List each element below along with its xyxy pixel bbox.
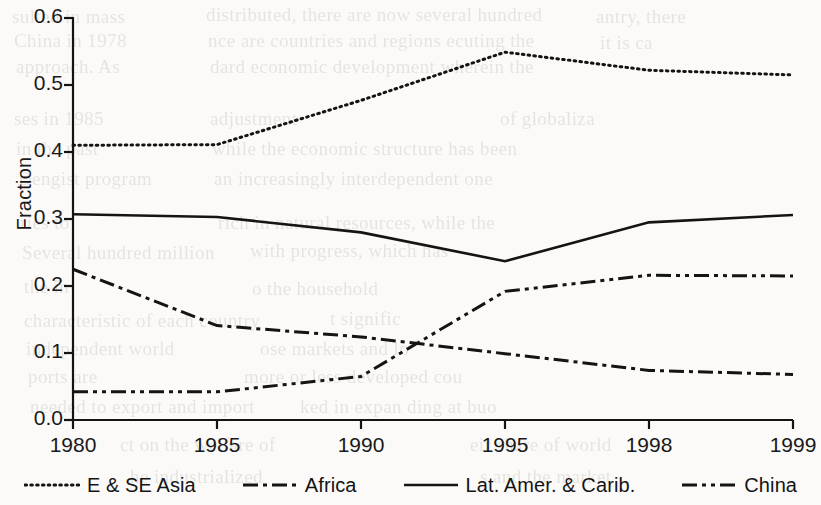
- series-line-0: [73, 52, 793, 145]
- x-axis-tick-label: 1980: [30, 433, 116, 457]
- series-line-3: [73, 275, 793, 392]
- line-chart-plot-area: [0, 0, 821, 505]
- legend-label: E & SE Asia: [87, 474, 196, 497]
- x-axis-tick-label: 1985: [174, 433, 260, 457]
- legend-item: Africa: [242, 474, 357, 497]
- legend-item: Lat. Amer. & Carib.: [403, 474, 636, 497]
- y-axis-tick-label: 0.0: [5, 406, 63, 430]
- legend-label: Africa: [305, 474, 357, 497]
- x-axis-tick-label: 1999: [750, 433, 821, 457]
- chart-legend: E & SE AsiaAfricaLat. Amer. & Carib.Chin…: [0, 468, 821, 502]
- y-axis-tick-label: 0.1: [5, 339, 63, 363]
- y-axis-tick-label: 0.2: [5, 272, 63, 296]
- legend-label: China: [744, 474, 797, 497]
- x-axis-tick-label: 1990: [318, 433, 404, 457]
- x-axis-tick-label: 1998: [606, 433, 692, 457]
- legend-item: China: [681, 474, 797, 497]
- legend-swatch-dash-dot: [242, 478, 298, 492]
- legend-swatch-solid: [403, 478, 459, 492]
- y-axis-tick-label: 0.5: [5, 71, 63, 95]
- y-axis-tick-label: 0.3: [5, 205, 63, 229]
- legend-item: E & SE Asia: [24, 474, 196, 497]
- legend-swatch-dash-dot-dot: [681, 478, 737, 492]
- y-axis-tick-label: 0.4: [5, 138, 63, 162]
- chart-figure: Fraction 0.00.10.20.30.40.50.6 198019851…: [0, 0, 821, 505]
- legend-swatch-dotted: [24, 478, 80, 492]
- x-axis-tick-label: 1995: [462, 433, 548, 457]
- y-axis-tick-label: 0.6: [5, 4, 63, 28]
- series-line-2: [73, 214, 793, 261]
- legend-label: Lat. Amer. & Carib.: [466, 474, 636, 497]
- series-line-1: [73, 269, 793, 374]
